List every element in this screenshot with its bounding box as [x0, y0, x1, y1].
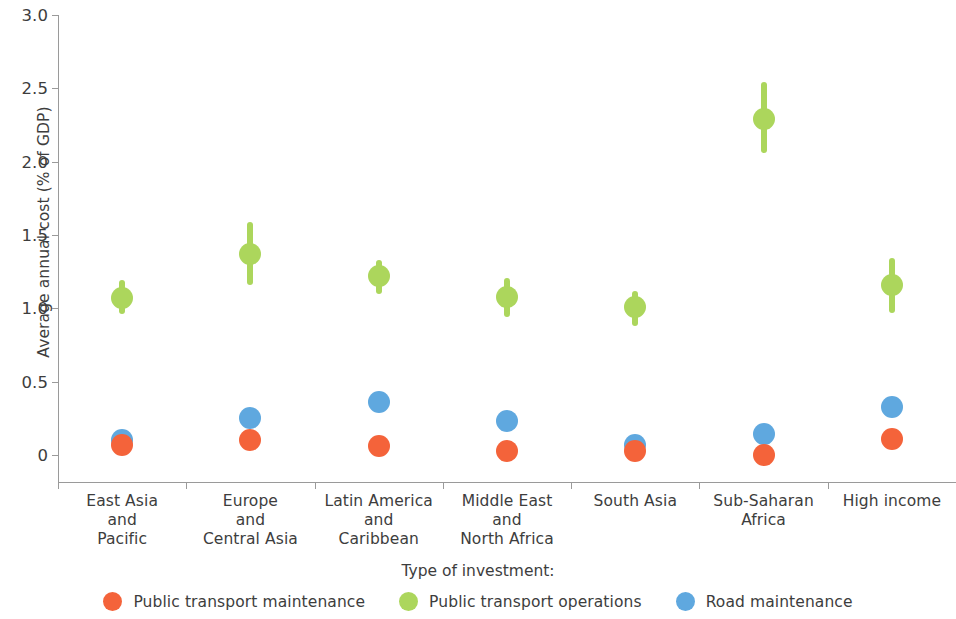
- x-tick-label: Latin America and Caribbean: [318, 492, 440, 549]
- legend-item[interactable]: Road maintenance: [676, 592, 853, 611]
- data-point: [239, 407, 261, 429]
- x-tick-label: East Asia and Pacific: [61, 492, 183, 549]
- data-point: [368, 265, 390, 287]
- data-point: [111, 287, 133, 309]
- x-tick-label: Sub-Saharan Africa: [702, 492, 824, 530]
- plot-area: [0, 0, 956, 482]
- data-point: [239, 243, 261, 265]
- data-point: [881, 274, 903, 296]
- legend-item[interactable]: Public transport operations: [399, 592, 642, 611]
- legend-item[interactable]: Public transport maintenance: [103, 592, 365, 611]
- data-point: [368, 435, 390, 457]
- x-tick-mark: [571, 482, 572, 489]
- x-axis-line: [58, 482, 956, 483]
- data-point: [496, 286, 518, 308]
- data-point: [881, 396, 903, 418]
- legend-swatch-icon: [676, 592, 695, 611]
- chart-figure: Average annual cost (% of GDP) 00.51.01.…: [0, 0, 956, 619]
- data-point: [881, 428, 903, 450]
- legend-swatch-icon: [103, 592, 122, 611]
- legend: Public transport maintenancePublic trans…: [0, 592, 956, 611]
- x-tick-mark: [443, 482, 444, 489]
- legend-label: Public transport maintenance: [133, 593, 365, 611]
- x-tick-mark: [699, 482, 700, 489]
- data-point: [239, 429, 261, 451]
- x-tick-label: South Asia: [574, 492, 696, 511]
- data-point: [496, 440, 518, 462]
- legend-label: Public transport operations: [429, 593, 642, 611]
- data-point: [753, 423, 775, 445]
- x-tick-label: Europe and Central Asia: [189, 492, 311, 549]
- data-point: [753, 108, 775, 130]
- data-point: [624, 440, 646, 462]
- legend-label: Road maintenance: [706, 593, 853, 611]
- data-point: [368, 391, 390, 413]
- legend-swatch-icon: [399, 592, 418, 611]
- data-point: [624, 296, 646, 318]
- x-tick-mark: [186, 482, 187, 489]
- data-point: [753, 444, 775, 466]
- legend-title: Type of investment:: [0, 562, 956, 580]
- data-point: [496, 410, 518, 432]
- x-tick-label: High income: [831, 492, 953, 511]
- x-tick-mark: [58, 482, 59, 489]
- data-point: [111, 434, 133, 456]
- x-tick-mark: [828, 482, 829, 489]
- x-tick-mark: [315, 482, 316, 489]
- x-tick-label: Middle East and North Africa: [446, 492, 568, 549]
